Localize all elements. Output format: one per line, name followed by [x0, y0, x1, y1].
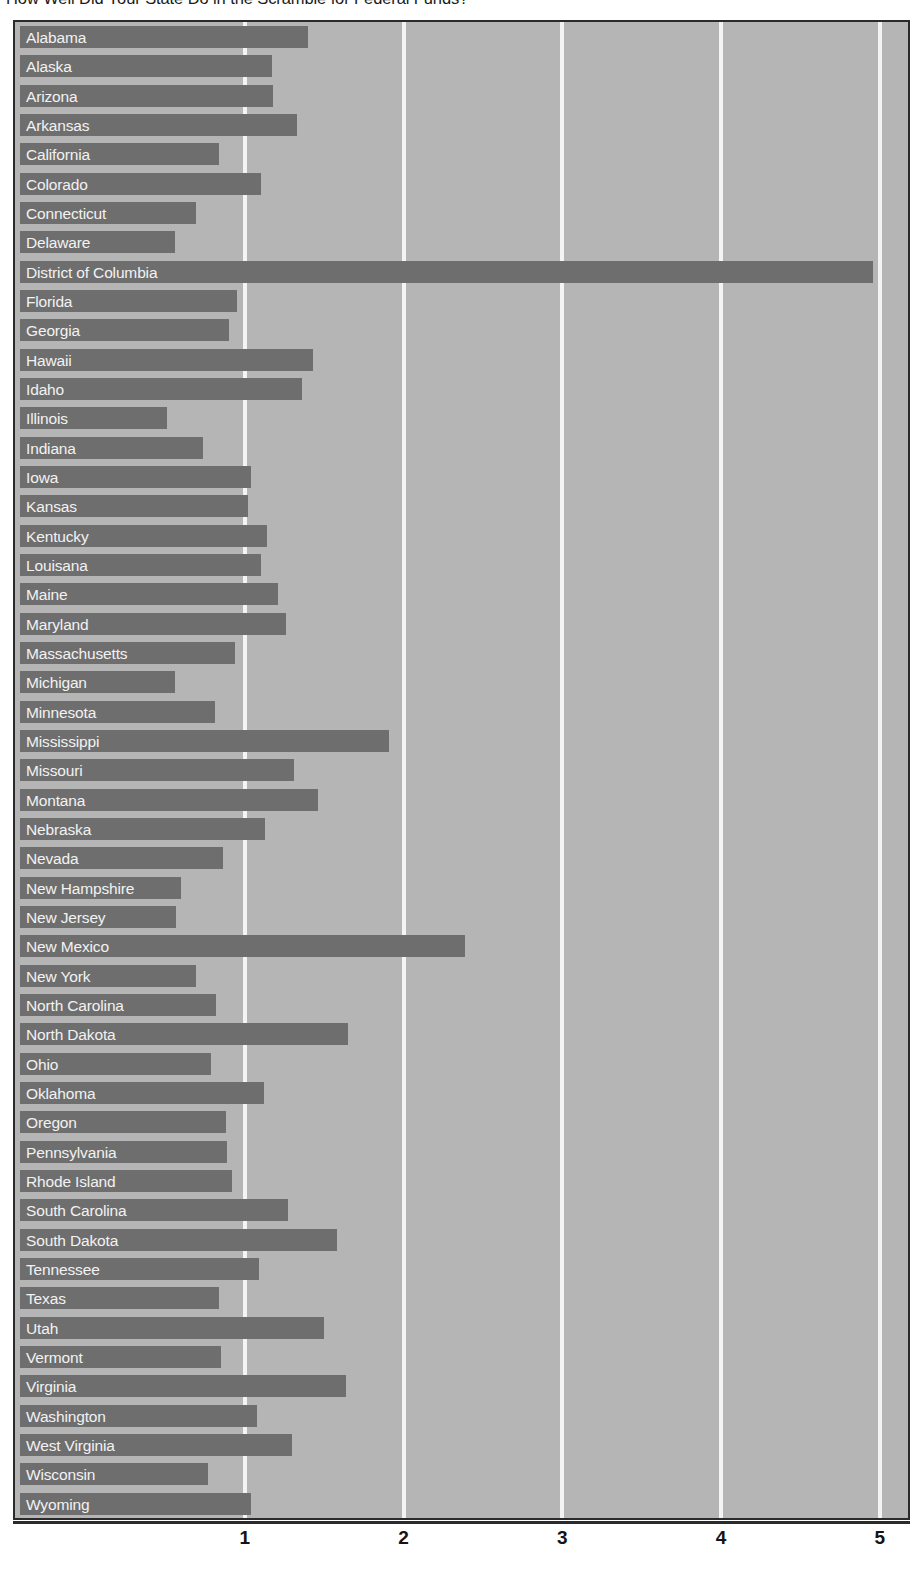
bar-row: Wyoming [15, 1489, 908, 1518]
plot-inner: AlabamaAlaskaArizonaArkansasCaliforniaCo… [15, 22, 908, 1518]
bar-category-label: Vermont [26, 1347, 83, 1369]
bar-category-label: Pennsylvania [26, 1142, 116, 1164]
bar-row: Hawaii [15, 345, 908, 374]
bar-category-label: Ohio [26, 1054, 58, 1076]
bar-category-label: Arkansas [26, 115, 89, 137]
bar-category-label: South Carolina [26, 1200, 126, 1222]
bar-row: North Dakota [15, 1019, 908, 1048]
bar-category-label: Connecticut [26, 203, 106, 225]
chart-page: How Well Did Your State Do in the Scramb… [0, 0, 923, 1577]
bar-row: Vermont [15, 1342, 908, 1371]
bar-row: Iowa [15, 462, 908, 491]
bar-category-label: Arizona [26, 86, 78, 108]
bar-category-label: Minnesota [26, 702, 96, 724]
bar-row: Mississippi [15, 726, 908, 755]
bar-category-label: Oklahoma [26, 1083, 95, 1105]
x-tick-label-2: 2 [398, 1527, 409, 1549]
bar-row: Nevada [15, 843, 908, 872]
bar-category-label: Hawaii [26, 350, 72, 372]
bar-row: Missouri [15, 755, 908, 784]
bar-row: Pennsylvania [15, 1137, 908, 1166]
bar-row: West Virginia [15, 1430, 908, 1459]
bar-row: Virginia [15, 1371, 908, 1400]
bar-row: Alabama [15, 22, 908, 51]
bar-category-label: Texas [26, 1288, 66, 1310]
bar-category-label: Colorado [26, 174, 88, 196]
bar-row: New Hampshire [15, 873, 908, 902]
bar-row: Georgia [15, 315, 908, 344]
bar-category-label: Nebraska [26, 819, 91, 841]
bar-category-label: Tennessee [26, 1259, 100, 1281]
bar-row: Nebraska [15, 814, 908, 843]
x-tick-label-4: 4 [716, 1527, 727, 1549]
bar-row: Minnesota [15, 697, 908, 726]
bar-category-label: Utah [26, 1318, 58, 1340]
bar-row: Oregon [15, 1107, 908, 1136]
bar-row: Indiana [15, 433, 908, 462]
bar-category-label: Michigan [26, 672, 87, 694]
bar-row: Ohio [15, 1049, 908, 1078]
bar-category-label: Maine [26, 584, 67, 606]
bar-row: South Dakota [15, 1225, 908, 1254]
bar [20, 1317, 324, 1339]
bar-category-label: Florida [26, 291, 72, 313]
bar-category-label: Mississippi [26, 731, 99, 753]
bar-row: Colorado [15, 169, 908, 198]
bar-category-label: Louisana [26, 555, 88, 577]
bar-row: Massachusetts [15, 638, 908, 667]
bar-row: Wisconsin [15, 1459, 908, 1488]
bar-category-label: New York [26, 966, 90, 988]
bar-row: New Mexico [15, 931, 908, 960]
bar-row: Maine [15, 579, 908, 608]
bar-category-label: Maryland [26, 614, 89, 636]
bar-category-label: Washington [26, 1406, 106, 1428]
bar-row: California [15, 139, 908, 168]
bar-category-label: North Carolina [26, 995, 124, 1017]
x-tick-label-1: 1 [239, 1527, 250, 1549]
bar-category-label: West Virginia [26, 1435, 115, 1457]
bar-category-label: Nevada [26, 848, 79, 870]
bar-row: Kentucky [15, 521, 908, 550]
bar-row: Kansas [15, 491, 908, 520]
bar-row: Texas [15, 1283, 908, 1312]
bar-row: New York [15, 961, 908, 990]
bar-category-label: Alabama [26, 27, 86, 49]
bar-category-label: Wyoming [26, 1494, 89, 1516]
chart-title: How Well Did Your State Do in the Scramb… [6, 0, 916, 9]
bar-category-label: Illinois [26, 408, 68, 430]
bar-category-label: Georgia [26, 320, 80, 342]
bar-row: Florida [15, 286, 908, 315]
bar-category-label: Iowa [26, 467, 58, 489]
bar-category-label: New Mexico [26, 936, 109, 958]
bar-category-label: South Dakota [26, 1230, 118, 1252]
x-tick-label-5: 5 [874, 1527, 885, 1549]
bar-category-label: North Dakota [26, 1024, 116, 1046]
bar-row: Idaho [15, 374, 908, 403]
bar-row: Delaware [15, 227, 908, 256]
bar-category-label: Kansas [26, 496, 77, 518]
bar-category-label: California [26, 144, 90, 166]
bar-row: District of Columbia [15, 257, 908, 286]
bar-row: Tennessee [15, 1254, 908, 1283]
bar-row: New Jersey [15, 902, 908, 931]
bar-row: Montana [15, 785, 908, 814]
bar-category-label: New Hampshire [26, 878, 134, 900]
bar-category-label: Wisconsin [26, 1464, 95, 1486]
bar-row: Alaska [15, 51, 908, 80]
bar-row: Louisana [15, 550, 908, 579]
bar-category-label: Montana [26, 790, 85, 812]
bar-row: Utah [15, 1313, 908, 1342]
bar-row: Oklahoma [15, 1078, 908, 1107]
bar-category-label: District of Columbia [26, 262, 157, 284]
x-axis-line [13, 1521, 910, 1524]
bar-row: Maryland [15, 609, 908, 638]
bar-category-label: Delaware [26, 232, 90, 254]
bar-row: South Carolina [15, 1195, 908, 1224]
bar-category-label: New Jersey [26, 907, 105, 929]
bar-row: Washington [15, 1401, 908, 1430]
bar-category-label: Alaska [26, 56, 72, 78]
bar-category-label: Indiana [26, 438, 76, 460]
x-tick-label-3: 3 [557, 1527, 568, 1549]
bar-row: Arkansas [15, 110, 908, 139]
bar-row: Arizona [15, 81, 908, 110]
